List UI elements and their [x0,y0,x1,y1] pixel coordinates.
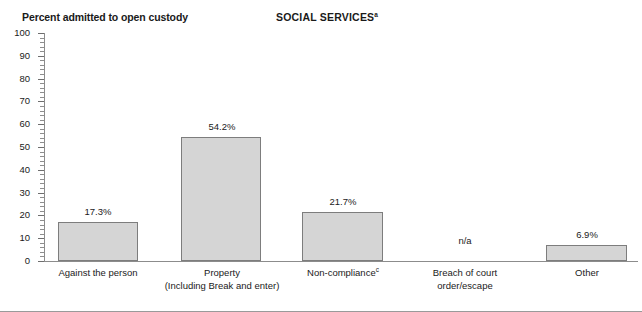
bar [546,245,627,261]
y-axis-tick-label: 40 [0,164,30,175]
y-axis-tick-minor [40,51,44,52]
y-axis-line [44,33,45,262]
y-axis-tick-minor [40,165,44,166]
bar-value-label: 54.2% [182,121,262,132]
y-axis-tick-minor [40,83,44,84]
y-axis-tick-minor [40,243,44,244]
y-axis-tick-minor [40,129,44,130]
y-axis-tick-minor [40,220,44,221]
y-axis-tick-minor [40,138,44,139]
category-label-line: Other [497,266,642,279]
bar [302,212,383,261]
y-axis-tick-major [38,170,44,171]
chart-title-superscript: a [374,11,378,18]
y-axis-tick-label: 90 [0,50,30,61]
y-axis-tick-minor [40,92,44,93]
y-axis-caption-text: Percent admitted to open custody [22,11,188,23]
y-axis-tick-minor [40,120,44,121]
y-axis-tick-label: 100 [0,27,30,38]
y-axis-tick-minor [40,206,44,207]
y-axis-tick-minor [40,183,44,184]
y-axis-tick-minor [40,47,44,48]
y-axis-tick-label: 30 [0,187,30,198]
y-axis-tick-label: 60 [0,118,30,129]
y-axis-tick-minor [40,60,44,61]
y-axis-tick-label: 80 [0,73,30,84]
y-axis-tick-major [38,101,44,102]
y-axis-tick-major [38,238,44,239]
y-axis-tick-major [38,193,44,194]
y-axis-tick-minor [40,211,44,212]
y-axis-tick-minor [40,152,44,153]
y-axis-tick-label: 50 [0,141,30,152]
y-axis-tick-minor [40,225,44,226]
bar-value-label: 6.9% [547,229,627,240]
y-axis-tick-minor [40,161,44,162]
chart-title-text: SOCIAL SERVICES [276,11,374,23]
y-axis-tick-major [38,79,44,80]
y-axis-tick-minor [40,188,44,189]
y-axis-tick-minor [40,156,44,157]
y-axis-tick-major [38,215,44,216]
y-axis-caption: Percent admitted to open custody [22,11,188,23]
y-axis-tick-label: 10 [0,232,30,243]
y-axis-tick-minor [40,142,44,143]
category-label: Other [497,266,642,279]
bar [181,137,261,261]
y-axis-tick-minor [40,111,44,112]
y-axis-tick-minor [40,174,44,175]
chart-title: SOCIAL SERVICESa [276,11,378,23]
y-axis-tick-minor [40,234,44,235]
y-axis-tick-minor [40,252,44,253]
y-axis-tick-minor [40,42,44,43]
x-axis-baseline [44,261,638,262]
category-label-line: (Including Break and enter) [132,279,312,292]
y-axis-tick-minor [40,115,44,116]
y-axis-tick-major [38,261,44,262]
y-axis-tick-major [38,124,44,125]
y-axis-tick-major [38,147,44,148]
y-axis-tick-label: 70 [0,95,30,106]
y-axis-tick-minor [40,256,44,257]
y-axis-tick-label: 0 [0,255,30,266]
bar [58,222,138,261]
y-axis-tick-minor [40,88,44,89]
chart-figure: Percent admitted to open custody SOCIAL … [0,0,642,312]
bar-value-label: 17.3% [58,206,138,217]
y-axis-tick-minor [40,202,44,203]
y-axis-tick-minor [40,133,44,134]
bar-value-label: n/a [425,235,505,246]
bar-value-label: 21.7% [303,196,383,207]
y-axis-tick-minor [40,74,44,75]
y-axis-tick-minor [40,229,44,230]
y-axis-tick-minor [40,106,44,107]
y-axis-tick-minor [40,65,44,66]
y-axis-tick-label: 20 [0,209,30,220]
category-label-line: order/escape [375,279,555,292]
y-axis-tick-major [38,33,44,34]
y-axis-tick-minor [40,197,44,198]
y-axis-tick-minor [40,247,44,248]
y-axis-tick-minor [40,38,44,39]
y-axis-tick-major [38,56,44,57]
y-axis-tick-minor [40,97,44,98]
y-axis-tick-minor [40,69,44,70]
y-axis-tick-minor [40,179,44,180]
